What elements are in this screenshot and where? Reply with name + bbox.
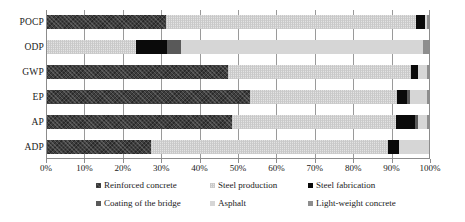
y-axis-label-ap: AP <box>0 117 44 127</box>
y-axis-label-gwp: GWP <box>0 67 44 77</box>
legend-swatch-steel-fabrication <box>308 183 313 188</box>
x-axis-tick-label-90: 90% <box>383 163 400 174</box>
bar-segment-steel-fabrication <box>397 90 407 104</box>
y-axis-category-labels: POCPODPGWPEPAPADP <box>0 10 44 159</box>
bar-segment-reinforced-concrete <box>46 140 151 154</box>
bar-segment-steel-fabrication <box>388 140 399 154</box>
legend-swatch-steel-production <box>210 183 215 188</box>
bar-segment-steel-production <box>46 40 136 54</box>
legend-item-reinforced-concrete[interactable]: Reinforced concrete <box>96 180 177 191</box>
bar-row-odp <box>46 40 430 54</box>
bar-segment-reinforced-concrete <box>46 65 228 79</box>
legend-row-1: Reinforced concreteSteel productionSteel… <box>96 180 396 196</box>
bar-segment-reinforced-concrete <box>46 115 232 129</box>
legend-swatch-reinforced-concrete <box>96 183 101 188</box>
x-axis-tick-label-40: 40% <box>191 163 208 174</box>
y-axis-label-odp: ODP <box>0 42 44 52</box>
x-axis-tick-labels: 0%10%20%30%40%50%60%70%80%90%100% <box>46 163 430 175</box>
legend-swatch-light-weight-concrete <box>308 201 313 206</box>
bar-segment-steel-production <box>166 15 416 29</box>
x-axis-tick-label-10: 10% <box>76 163 93 174</box>
x-axis-tick-label-80: 80% <box>345 163 362 174</box>
bar-segment-coating-of-the-bridge <box>167 40 181 54</box>
bar-segment-steel-production <box>228 65 411 79</box>
legend-label-steel-fabrication: Steel fabrication <box>316 180 375 191</box>
legend-row-2: Coating of the bridgeAsphaltLight-weight… <box>96 198 396 214</box>
legend-label-light-weight-concrete: Light-weight concrete <box>316 198 396 209</box>
x-axis-tick-label-70: 70% <box>307 163 324 174</box>
bar-segment-steel-production <box>232 115 396 129</box>
x-axis-tick-label-20: 20% <box>115 163 132 174</box>
legend-item-light-weight-concrete[interactable]: Light-weight concrete <box>308 198 396 209</box>
bar-segment-light-weight-concrete <box>423 40 430 54</box>
bar-segment-light-weight-concrete <box>427 90 430 104</box>
bars-layer <box>46 10 430 159</box>
bar-segment-light-weight-concrete <box>427 115 430 129</box>
x-axis-tick-label-60: 60% <box>268 163 285 174</box>
bar-segment-asphalt <box>399 140 430 154</box>
legend-swatch-coating-of-the-bridge <box>96 201 101 206</box>
bar-segment-steel-production <box>151 140 388 154</box>
bar-row-adp <box>46 140 430 154</box>
bar-segment-asphalt <box>181 40 423 54</box>
legend-label-asphalt: Asphalt <box>218 198 246 209</box>
bar-row-gwp <box>46 65 430 79</box>
bar-segment-steel-production <box>250 90 397 104</box>
y-axis-label-ep: EP <box>0 92 44 102</box>
bar-segment-light-weight-concrete <box>427 15 430 29</box>
stacked-bar-chart: POCPODPGWPEPAPADP 0%10%20%30%40%50%60%70… <box>0 0 465 222</box>
bar-row-pocp <box>46 15 430 29</box>
legend-item-coating-of-the-bridge[interactable]: Coating of the bridge <box>96 198 181 209</box>
chart-legend: Reinforced concreteSteel productionSteel… <box>96 180 396 218</box>
legend-item-steel-fabrication[interactable]: Steel fabrication <box>308 180 375 191</box>
bar-row-ep <box>46 90 430 104</box>
legend-swatch-asphalt <box>210 201 215 206</box>
bar-segment-asphalt <box>418 115 426 129</box>
bar-row-ap <box>46 115 430 129</box>
legend-label-coating-of-the-bridge: Coating of the bridge <box>104 198 181 209</box>
y-axis-label-adp: ADP <box>0 142 44 152</box>
legend-label-steel-production: Steel production <box>218 180 277 191</box>
legend-item-asphalt[interactable]: Asphalt <box>210 198 246 209</box>
x-axis-tick-label-100: 100% <box>420 163 441 174</box>
legend-label-reinforced-concrete: Reinforced concrete <box>104 180 177 191</box>
bar-segment-asphalt <box>418 65 427 79</box>
bar-segment-steel-fabrication <box>136 40 167 54</box>
plot-area <box>46 10 430 159</box>
x-axis-tick-label-50: 50% <box>230 163 247 174</box>
bar-segment-light-weight-concrete <box>427 65 430 79</box>
bar-segment-reinforced-concrete <box>46 90 250 104</box>
x-axis-tick-label-30: 30% <box>153 163 170 174</box>
bar-segment-reinforced-concrete <box>46 15 166 29</box>
y-axis-label-pocp: POCP <box>0 17 44 27</box>
bar-segment-asphalt <box>410 90 427 104</box>
x-axis-tick-label-0: 0% <box>40 163 52 174</box>
legend-item-steel-production[interactable]: Steel production <box>210 180 277 191</box>
bar-segment-steel-fabrication <box>416 15 425 29</box>
bar-segment-steel-fabrication <box>396 115 415 129</box>
